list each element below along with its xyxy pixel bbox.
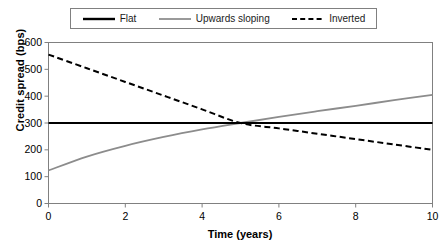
- credit-spread-chart: Flat Upwards sloping Inverted: [0, 0, 448, 250]
- x-axis-tick-labels: 0246810: [0, 0, 448, 250]
- x-tick-label: 10: [418, 211, 448, 222]
- x-tick-label: 6: [264, 211, 294, 222]
- y-axis-title: Credit spread (bps): [14, 0, 26, 160]
- x-tick-label: 2: [110, 211, 140, 222]
- x-tick-label: 8: [341, 211, 371, 222]
- x-axis-title: Time (years): [48, 228, 432, 240]
- x-tick-label: 0: [34, 211, 64, 222]
- x-tick-label: 4: [187, 211, 217, 222]
